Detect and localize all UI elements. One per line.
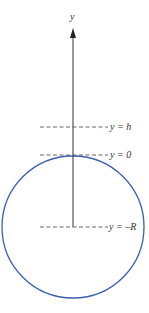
label-y-equals-0: y = 0 (110, 150, 131, 160)
label-y-equals-h: y = h (110, 122, 131, 132)
diagram-canvas: y y = h y = 0 y = –R (0, 0, 149, 313)
y-axis-label: y (70, 12, 74, 22)
y-axis-arrow-icon (70, 28, 76, 38)
label-y-equals-neg-R: y = –R (109, 222, 136, 232)
